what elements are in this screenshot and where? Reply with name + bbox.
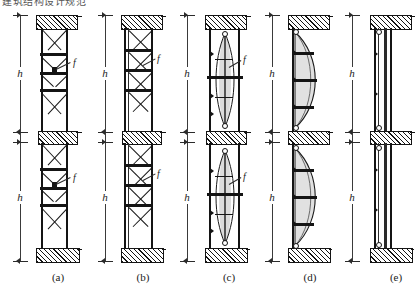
dimension-tick-bottom <box>265 261 280 262</box>
chord-anchor-wedge <box>210 93 214 99</box>
dimension-tick-top <box>98 15 113 16</box>
chord-anchor-wedge <box>374 207 378 213</box>
chord-anchor-wedge <box>210 111 214 117</box>
brace-diagonal <box>129 207 149 227</box>
chord-anchor-wedge <box>374 51 378 57</box>
chord-right-upper <box>390 28 392 131</box>
tie-cross-strut <box>215 214 233 215</box>
cropped-header-label: 建筑结构设计规范 <box>2 0 86 8</box>
lens-tie-upper <box>211 31 243 129</box>
structure-e <box>370 15 416 262</box>
panel-d: h h <box>252 9 332 294</box>
chord-anchor-wedge <box>210 168 214 174</box>
story-height-label-upper: h <box>339 67 365 80</box>
batten-plate <box>40 72 68 75</box>
slab-bottom-stub <box>411 249 414 250</box>
chord-anchor-wedge <box>292 76 296 82</box>
dimension-tick-bottom <box>98 261 113 262</box>
cable-anchor-node-bottom <box>293 125 299 131</box>
panel-c: h h <box>167 9 252 294</box>
story-height-label-upper: h <box>92 67 118 80</box>
panel-caption-b: (b) <box>123 271 163 283</box>
slab-bottom <box>121 248 164 263</box>
brace-diagonal <box>129 72 148 91</box>
story-height-label-lower: h <box>174 191 200 204</box>
slab-top-stub <box>161 16 166 17</box>
cropped-header-text: 建筑结构设计规范 <box>0 0 419 9</box>
chord-left-outer-lower <box>124 143 126 248</box>
connection-node <box>376 145 382 151</box>
slab-mid-stub <box>245 132 251 133</box>
chord-left-inner-upper <box>128 28 129 131</box>
chord-right-lower <box>390 143 392 248</box>
chord-anchor-wedge <box>292 193 296 199</box>
dimension-tick-mid-lower <box>98 142 113 143</box>
slab-bottom <box>205 248 248 263</box>
panel-caption-a: (a) <box>38 271 78 283</box>
dimension-tick-mid-upper <box>345 132 360 133</box>
dimension-tick-mid-lower <box>265 142 280 143</box>
chord-anchor-wedge <box>210 228 214 234</box>
dimension-tick-mid-lower <box>345 142 360 143</box>
slab-top <box>288 15 330 30</box>
panel-caption-c: (c) <box>209 271 249 283</box>
brace-diagonal <box>42 144 62 165</box>
slab-bottom <box>370 248 413 263</box>
chord-right-lower <box>151 143 153 248</box>
chord-right-upper <box>151 28 153 131</box>
slab-mid-stub <box>160 132 166 133</box>
panel-b: h h <box>85 9 167 294</box>
slab-bottom <box>36 248 80 263</box>
dimension-tick-mid-upper <box>180 132 195 133</box>
slab-bottom-stub <box>162 249 166 250</box>
dimension-line-b: h h <box>93 15 119 262</box>
mid-strut <box>207 76 243 79</box>
tie-anchor-node-top <box>222 148 228 154</box>
tie-anchor-node-bottom <box>222 123 228 129</box>
chord-left-outer-upper <box>124 28 126 131</box>
slab-bottom-stub <box>246 249 250 250</box>
tie-anchor-node-bottom <box>222 240 228 246</box>
brace-diagonal <box>132 207 152 227</box>
dimension-tick-mid-upper <box>13 132 28 133</box>
dimension-tick-bottom <box>180 261 195 262</box>
brace-diagonal <box>129 187 148 206</box>
structure-c: f f <box>205 15 251 262</box>
cable-anchor-node-bottom <box>293 243 299 249</box>
dimension-tick-mid-upper <box>98 132 113 133</box>
chord-anchor-wedge <box>374 167 378 173</box>
slab-mid-stub <box>410 132 415 133</box>
structure-a: f f <box>36 15 82 262</box>
dimension-line-a: h h <box>8 15 34 262</box>
slab-mid <box>288 131 330 145</box>
structure-d <box>288 15 332 262</box>
chord-left-upper <box>41 28 43 131</box>
slab-top-stub <box>76 16 82 17</box>
mid-strut <box>207 193 243 196</box>
story-height-label-upper: h <box>7 67 33 80</box>
chord-web-lower <box>384 143 387 248</box>
tie-anchor-node-top <box>222 31 228 37</box>
dimension-tick-top <box>180 15 195 16</box>
connection-node <box>376 242 382 248</box>
slab-mid <box>206 131 247 145</box>
batten-plate <box>40 89 68 92</box>
batten-plate <box>40 204 68 207</box>
batten-plate <box>40 168 68 171</box>
brace-label-f-upper: f <box>73 58 76 68</box>
panel-e: h h (e) <box>332 9 419 294</box>
structure-b: f f <box>121 15 165 262</box>
slab-top <box>205 15 247 30</box>
connection-node <box>376 29 382 35</box>
dimension-tick-bottom <box>345 261 360 262</box>
chord-right-upper <box>66 28 68 131</box>
brace-diagonal <box>129 92 149 112</box>
brace-diagonal <box>129 52 148 71</box>
connection-node <box>376 125 382 131</box>
cable-anchor-node-top <box>293 145 299 151</box>
slab-top-stub <box>245 16 251 17</box>
brace-diagonal <box>42 190 54 202</box>
brace-diagonal <box>129 145 149 165</box>
dimension-tick-top <box>13 15 28 16</box>
dimension-tick-top <box>265 15 280 16</box>
